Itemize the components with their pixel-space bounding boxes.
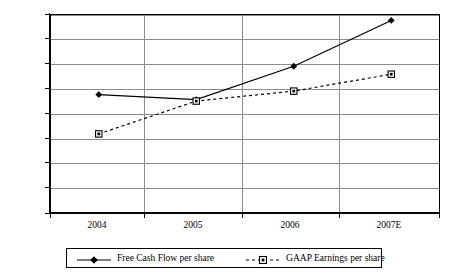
- x-tick-mark: [242, 214, 243, 218]
- x-axis-label-2005: 2005: [153, 220, 233, 231]
- legend-swatch-square-dashed: [244, 252, 282, 264]
- gridline-4-00: [51, 15, 439, 16]
- gridline-1-00: [51, 163, 439, 164]
- y-tick-mark: [45, 162, 50, 163]
- gridline-2-50: [51, 89, 439, 90]
- legend: Free Cash Flow per share GAAP Earnings p…: [66, 248, 382, 268]
- gridline-3-50: [51, 39, 439, 40]
- category-divider-1: [144, 15, 145, 212]
- y-tick-mark: [45, 113, 50, 114]
- y-tick-mark: [45, 14, 50, 15]
- legend-item-gaap-earnings: GAAP Earnings per share: [244, 249, 385, 267]
- legend-label-gaap-earnings: GAAP Earnings per share: [286, 253, 385, 264]
- y-tick-mark: [45, 138, 50, 139]
- category-divider-3: [339, 15, 340, 212]
- y-tick-mark: [45, 63, 50, 64]
- line-chart: $4.00 $3.50 $3.00 $2.50 $2.00 $1.50 $1.0…: [0, 0, 449, 273]
- x-axis-label-2004: 2004: [57, 220, 137, 231]
- y-tick-mark: [45, 88, 50, 89]
- y-tick-mark: [45, 38, 50, 39]
- category-divider-2: [242, 15, 243, 212]
- legend-swatch-diamond-solid: [75, 252, 113, 264]
- x-tick-mark: [439, 214, 440, 218]
- x-axis-line: [50, 213, 440, 214]
- legend-item-free-cash-flow: Free Cash Flow per share: [75, 249, 214, 267]
- x-axis-label-2007e: 2007E: [349, 220, 429, 231]
- x-tick-mark: [144, 214, 145, 218]
- gridline-1-50: [51, 139, 439, 140]
- x-tick-mark: [50, 214, 51, 218]
- legend-label-free-cash-flow: Free Cash Flow per share: [117, 253, 214, 264]
- gridline-2-00: [51, 114, 439, 115]
- gridline-3-00: [51, 64, 439, 65]
- y-tick-mark: [45, 187, 50, 188]
- x-tick-mark: [339, 214, 340, 218]
- plot-area: [50, 14, 440, 213]
- gridline-0-50: [51, 188, 439, 189]
- x-axis-label-2006: 2006: [250, 220, 330, 231]
